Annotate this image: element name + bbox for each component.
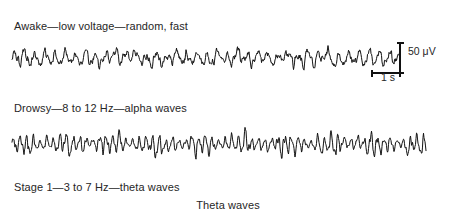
eeg-figure: Awake—low voltage—random, fast 50 μV 1 s… — [0, 0, 456, 214]
eeg-waveform-path-drowsy — [12, 127, 426, 159]
scale-bar: 50 μV 1 s — [376, 38, 456, 88]
trace-label-drowsy: Drowsy—8 to 12 Hz—alpha waves — [14, 102, 187, 115]
scale-bar-voltage-label: 50 μV — [408, 45, 436, 57]
scale-bar-vertical-line — [397, 43, 404, 73]
eeg-waveform-path-awake — [12, 46, 400, 71]
scale-bar-time-label: 1 s — [381, 71, 395, 83]
figure-caption: Theta waves — [0, 199, 456, 212]
eeg-trace-drowsy — [0, 122, 456, 170]
trace-label-awake: Awake—low voltage—random, fast — [14, 20, 188, 33]
trace-label-stage1: Stage 1—3 to 7 Hz—theta waves — [14, 181, 180, 194]
